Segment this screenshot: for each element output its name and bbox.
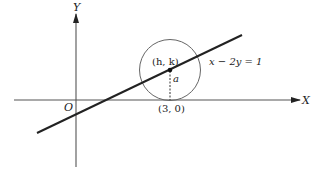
center-label: (h, k) <box>152 56 179 67</box>
diagram-canvas: Y X O (h, k) a (3, 0) x − 2y = 1 <box>0 0 312 178</box>
circle-tangent-diagram: Y X O (h, k) a (3, 0) x − 2y = 1 <box>0 0 312 178</box>
x-axis-label: X <box>301 94 311 107</box>
y-axis-label: Y <box>73 1 82 14</box>
line-x-minus-2y-equals-1 <box>37 35 242 133</box>
tangent-point-label: (3, 0) <box>158 103 185 114</box>
center-point <box>168 68 173 73</box>
radius-label: a <box>173 73 179 84</box>
line-equation-label: x − 2y = 1 <box>209 56 263 67</box>
origin-label: O <box>64 101 73 114</box>
